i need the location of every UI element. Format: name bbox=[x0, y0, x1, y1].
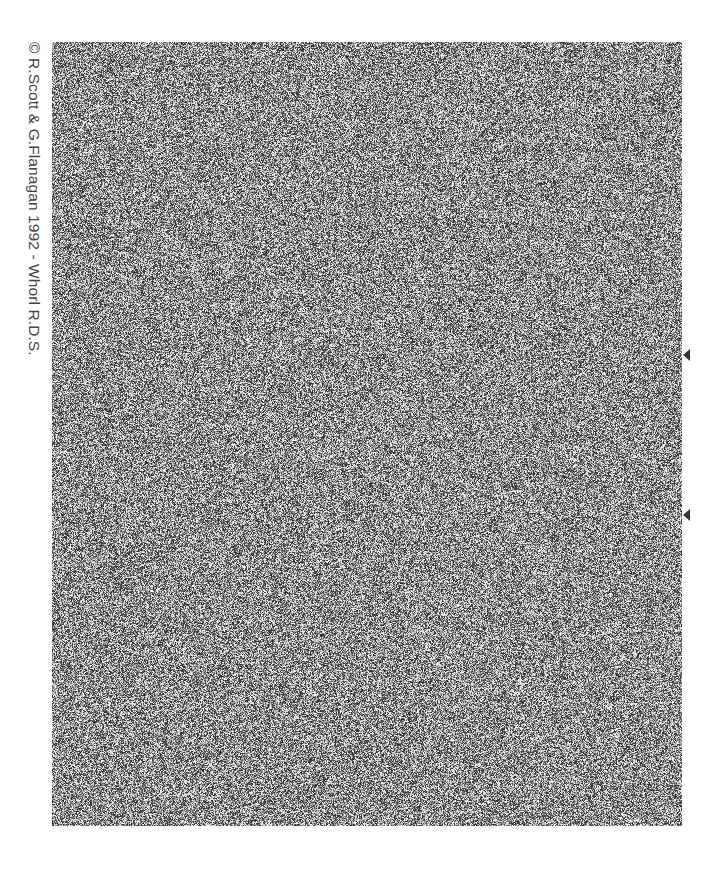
alignment-marker-top-icon bbox=[683, 349, 690, 361]
random-dot-stereogram bbox=[52, 42, 682, 826]
alignment-marker-bottom-icon bbox=[683, 509, 690, 521]
copyright-caption: © R.Scott & G.Flanagan 1992 - Whorl R.D.… bbox=[25, 42, 43, 356]
